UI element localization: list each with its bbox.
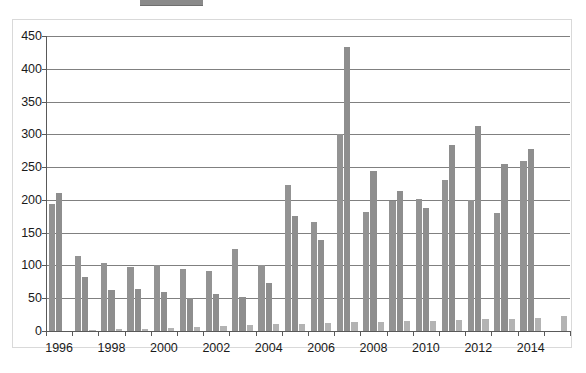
bar-series-2-2002 [213,294,219,331]
bar-series-3-2005 [299,324,305,331]
x-tick-mark [125,331,126,336]
x-axis-tick-label: 2012 [464,341,492,355]
bar-series-3-2010 [430,321,436,331]
bar-series-1-1998 [101,263,107,331]
bar-series-3-1998 [116,329,122,331]
bar-series-1-1999 [127,267,133,331]
bar-series-1-2002 [206,271,212,331]
bar-series-1-2009 [389,201,395,331]
x-tick-mark [46,331,47,336]
y-axis-tick-label: 150 [21,227,42,240]
x-axis-tick-label: 2002 [202,341,230,355]
bar-series-1-1997 [75,256,81,331]
y-axis-line [46,36,47,331]
y-tick-mark [42,102,46,103]
bar-series-1-2000 [154,265,160,331]
x-tick-mark [151,331,152,336]
bar-series-2-1996 [56,193,62,331]
bar-series-1-2001 [180,269,186,331]
x-tick-mark [439,331,440,336]
x-axis-tick-label: 1996 [45,341,73,355]
bar-series-1-2008 [363,212,369,331]
x-tick-mark [98,331,99,336]
bar-series-2-2004 [266,283,272,331]
x-axis-tick-label: 2006 [307,341,335,355]
bar-series-3-1997 [89,330,95,331]
x-tick-mark [465,331,466,336]
y-axis-tick-label: 250 [21,161,42,174]
x-tick-mark [387,331,388,336]
bar-series-2-1997 [82,277,88,331]
x-tick-mark [72,331,73,336]
y-tick-mark [42,200,46,201]
bar-series-1-1996 [49,204,55,331]
bar-series-3-2011 [456,320,462,331]
bar-series-2-2003 [239,297,245,331]
bar-series-3-2013 [509,319,515,331]
x-axis-tick-label: 1998 [98,341,126,355]
x-tick-mark [282,331,283,336]
gridline [46,200,570,201]
bar-series-1-2006 [311,222,317,331]
x-axis-tick-label: 2010 [412,341,440,355]
y-tick-mark [42,233,46,234]
x-tick-mark [334,331,335,336]
bar-series-2-2001 [187,298,193,331]
bar-series-2-2012 [475,126,481,331]
bar-series-1-2014 [520,161,526,331]
bar-series-3-2012 [482,319,488,331]
bar-series-1-2013 [494,213,500,331]
bar-series-2-2011 [449,145,455,331]
bar-series-1-2003 [232,249,238,331]
x-tick-mark [544,331,545,336]
bar-series-3-2004 [273,324,279,331]
y-tick-mark [42,36,46,37]
y-axis-tick-label: 100 [21,259,42,272]
gridline [46,36,570,37]
bar-series-2-1998 [108,290,114,331]
bar-series-1-2005 [285,185,291,331]
y-axis-tick-label: 450 [21,30,42,43]
bar-series-2-2005 [292,216,298,331]
y-tick-mark [42,298,46,299]
gridline [46,167,570,168]
x-tick-mark [229,331,230,336]
gridline [46,298,570,299]
y-axis-tick-label: 50 [28,292,42,305]
y-tick-mark [42,134,46,135]
gridline [46,102,570,103]
plot-area: 1996199820002002200420062008201020122014 [46,36,570,331]
x-tick-mark [360,331,361,336]
x-tick-mark [413,331,414,336]
gridline [46,265,570,266]
x-tick-mark [491,331,492,336]
y-tick-mark [42,167,46,168]
bar-series-2-2007 [344,47,350,332]
y-tick-mark [42,69,46,70]
y-axis-tick-label: 200 [21,194,42,207]
gridline [46,233,570,234]
bar-series-1-2011 [442,180,448,331]
y-axis-tick-label: 350 [21,96,42,109]
bar-series-3-2008 [378,322,384,331]
y-tick-mark [42,265,46,266]
x-axis-tick-label: 2008 [360,341,388,355]
bar-series-2-2013 [501,164,507,331]
legend-swatch-icon [140,0,203,6]
y-axis-tick-label: 0 [35,325,42,338]
bar-series-1-2007 [337,134,343,331]
x-axis-tick-label: 2014 [517,341,545,355]
bar-series-3-2001 [194,327,200,331]
bar-series-3-2015 [561,316,567,331]
bar-series-2-2014 [528,149,534,331]
bar-series-3-2002 [220,326,226,331]
x-tick-mark [177,331,178,336]
bar-chart: 050100150200250300350400450 199619982000… [0,0,586,373]
bar-series-2-2009 [397,191,403,331]
bar-series-2-2010 [423,208,429,331]
x-tick-mark [256,331,257,336]
x-axis-tick-label: 2000 [150,341,178,355]
bar-series-1-2012 [468,200,474,331]
gridline [46,134,570,135]
x-tick-mark [308,331,309,336]
